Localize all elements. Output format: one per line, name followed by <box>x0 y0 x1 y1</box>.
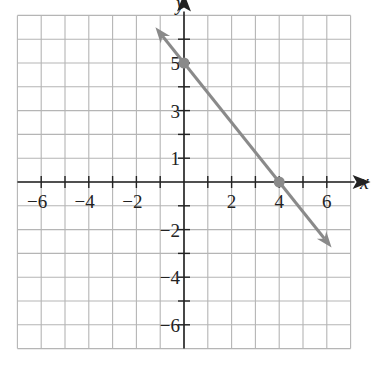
y-tick-label: 1 <box>171 148 181 169</box>
x-tick-label: −4 <box>75 191 96 212</box>
coordinate-plane: −6−4−2246531−2−4−6 x y <box>0 0 384 366</box>
data-point <box>179 58 190 69</box>
y-tick-label: −6 <box>160 315 180 336</box>
y-tick-label: −4 <box>160 267 181 288</box>
tick-labels: −6−4−2246531−2−4−6 <box>27 53 332 336</box>
x-axis-label: x <box>359 171 369 193</box>
y-tick-label: 3 <box>171 101 181 122</box>
x-tick-label: 6 <box>322 191 332 212</box>
axes <box>17 0 370 349</box>
x-tick-label: −2 <box>122 191 142 212</box>
x-tick-label: 2 <box>227 191 237 212</box>
x-tick-label: 4 <box>274 191 284 212</box>
y-tick-label: −2 <box>160 220 180 241</box>
x-tick-label: −6 <box>27 191 47 212</box>
y-axis-label: y <box>174 0 185 15</box>
data-point <box>274 177 285 188</box>
